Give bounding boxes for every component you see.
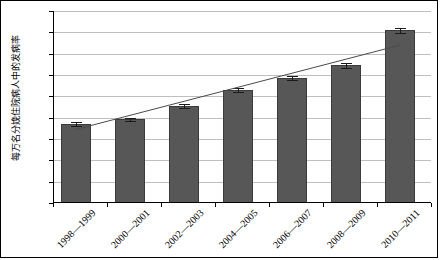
plot-area: 0.020.040.060.080.0100.0120.0140.0160.01… (53, 11, 431, 203)
y-axis-line (53, 11, 54, 203)
trend-line (53, 11, 431, 203)
x-tick-label: 2008—2009 (325, 207, 368, 250)
y-axis-title: 每万名分娩住院病人中的发病率 (9, 0, 22, 198)
x-tick-label: 2000—2001 (109, 207, 152, 250)
x-tick-label: 1998—1999 (55, 207, 98, 250)
plot-inner: 0.020.040.060.080.0100.0120.0140.0160.01… (53, 11, 431, 203)
x-tick-label: 2004—2005 (217, 207, 260, 250)
chart-frame: 每万名分娩住院病人中的发病率 0.020.040.060.080.0100.01… (0, 0, 438, 258)
x-tick-mark (431, 203, 432, 207)
x-tick-label: 2006—2007 (271, 207, 314, 250)
trend-line-segment (76, 45, 400, 129)
x-axis-labels-group: 1998—19992000—20012002—20032004—20052006… (53, 207, 431, 259)
x-axis-line (53, 202, 431, 203)
x-tick-label: 2010—2011 (379, 207, 422, 250)
x-tick-label: 2002—2003 (163, 207, 206, 250)
